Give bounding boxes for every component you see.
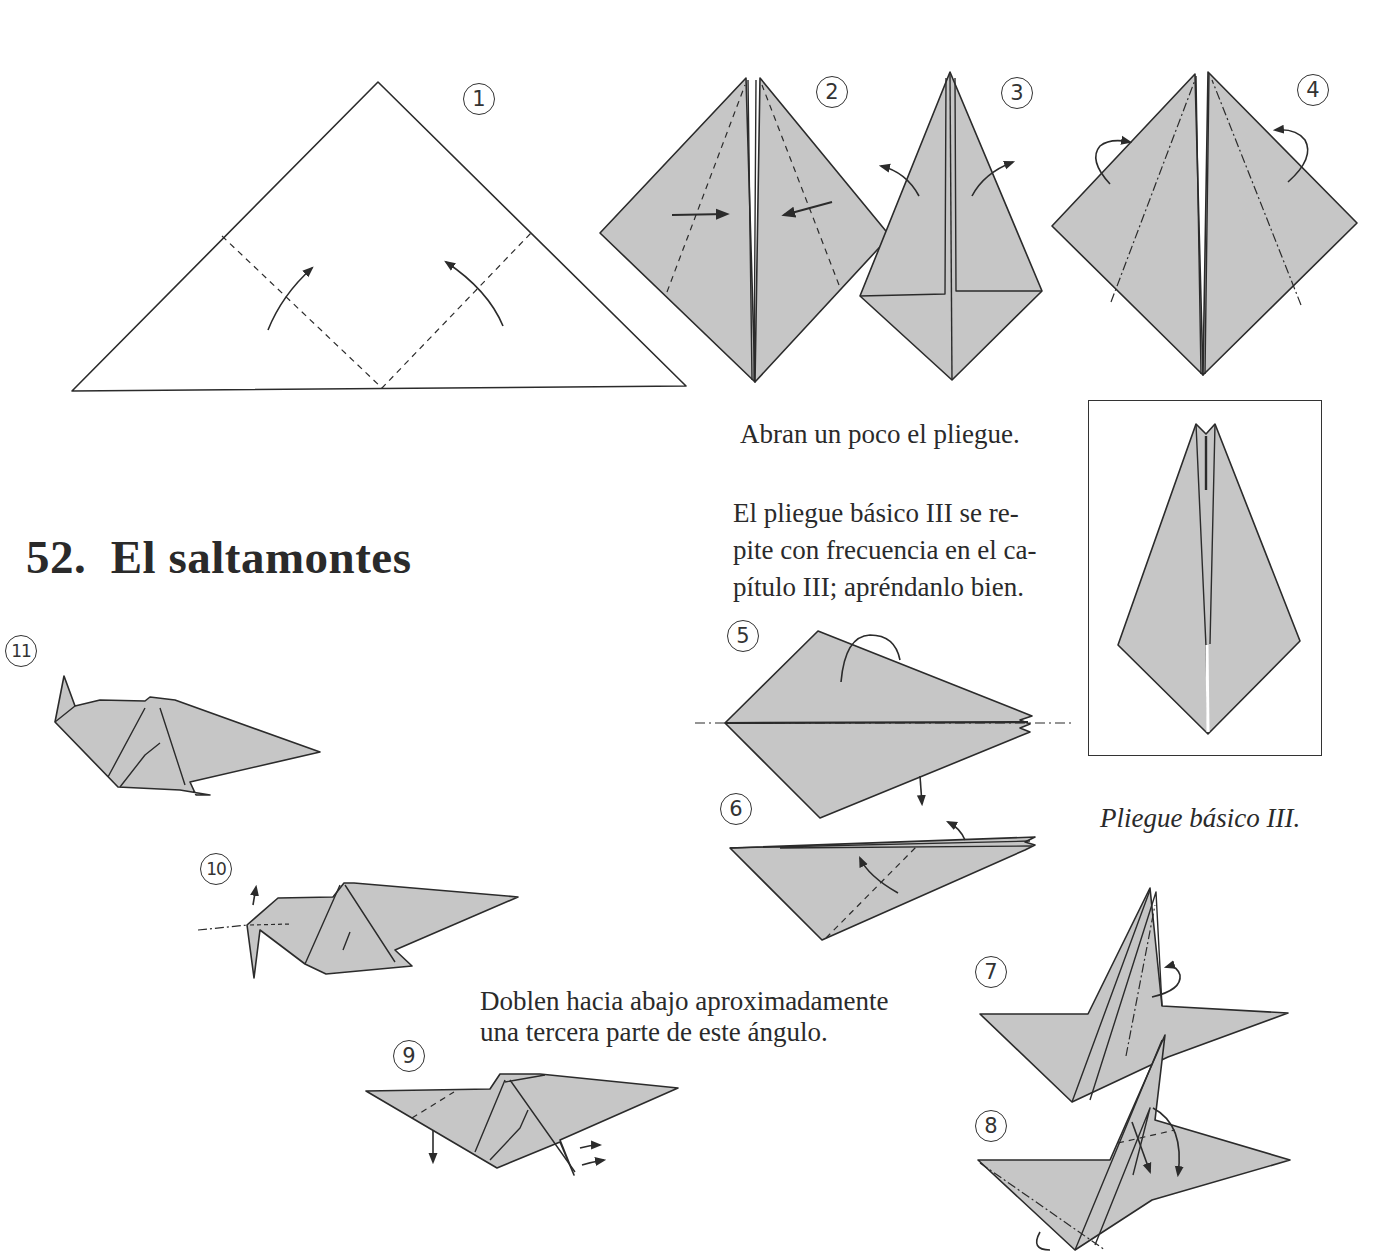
step-number-6: 6 (720, 793, 752, 825)
step-5-diagram (695, 631, 1075, 818)
step-9-diagram (366, 1074, 678, 1175)
caption-fold-down: Doblen hacia abajo aproximadamente una t… (480, 983, 889, 1051)
step-1-diagram (72, 82, 686, 391)
step-number-7: 7 (975, 956, 1007, 988)
step-3-diagram (860, 72, 1042, 380)
step-7-diagram (980, 888, 1288, 1102)
caption-line: una tercera parte de este ángulo. (480, 1014, 889, 1051)
step-2-diagram (600, 78, 890, 382)
step-number-9: 9 (393, 1040, 425, 1072)
basic-fold-frame (1088, 400, 1322, 756)
step-number-8: 8 (975, 1110, 1007, 1142)
step-number-11: 11 (5, 635, 37, 667)
caption-line: pite con frecuencia en el ca- (733, 532, 1073, 569)
step-4-diagram (1052, 72, 1357, 375)
step-number-2: 2 (816, 76, 848, 108)
caption-basic-fold-label: Pliegue básico III. (1100, 800, 1300, 837)
caption-basic-fold-note: El pliegue básico III se re- pite con fr… (733, 495, 1073, 606)
caption-line: El pliegue básico III se re- (733, 495, 1073, 532)
page-title: 52. El saltamontes (26, 530, 412, 584)
caption-open-fold: Abran un poco el pliegue. (740, 416, 1020, 453)
step-11-diagram (55, 676, 320, 795)
step-6-diagram (730, 822, 1035, 940)
step-number-5: 5 (727, 620, 759, 652)
step-number-10: 10 (200, 853, 232, 885)
step-10-diagram (198, 883, 518, 978)
step-number-4: 4 (1297, 74, 1329, 106)
step-number-3: 3 (1001, 77, 1033, 109)
step-number-1: 1 (463, 83, 495, 115)
caption-line: pítulo III; apréndanlo bien. (733, 569, 1073, 606)
